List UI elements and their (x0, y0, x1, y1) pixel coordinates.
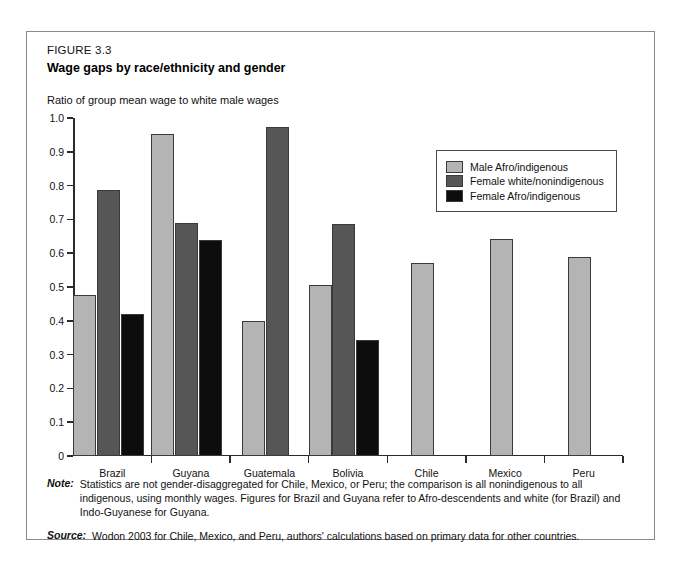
bar (332, 224, 355, 456)
x-tick-mark (622, 456, 624, 463)
bar-group: Guyana (152, 118, 231, 456)
y-tick-label: 0.2 (49, 382, 64, 394)
bar (266, 127, 289, 456)
bar-group: Guatemala (230, 118, 309, 456)
figure-title: Wage gaps by race/ethnicity and gender (47, 61, 286, 75)
legend-label: Male Afro/indigenous (470, 161, 568, 173)
legend-label: Female Afro/indigenous (470, 190, 580, 202)
bar (175, 223, 198, 456)
x-tick-mark (229, 456, 231, 463)
source-text: Wodon 2003 for Chile, Mexico, and Peru, … (92, 529, 579, 543)
bar (73, 295, 96, 456)
bar (356, 340, 379, 456)
y-tick-label: 0.6 (49, 247, 64, 259)
legend-item: Female white/nonindigenous (446, 175, 604, 187)
source-block: Source: Wodon 2003 for Chile, Mexico, an… (47, 529, 638, 543)
x-tick-mark (465, 456, 467, 463)
legend-label: Female white/nonindigenous (470, 175, 604, 187)
bar (411, 263, 434, 456)
source-label: Source: (47, 529, 92, 543)
y-tick-label: 0.4 (49, 315, 64, 327)
bar (568, 257, 591, 456)
y-tick-label: 0.3 (49, 349, 64, 361)
y-tick-label: 0 (58, 450, 64, 462)
figure-number: FIGURE 3.3 (47, 44, 112, 56)
bar (97, 190, 120, 456)
note-block: Note: Statistics are not gender-disaggre… (47, 477, 638, 520)
note-text: Statistics are not gender-disaggregated … (80, 477, 638, 520)
legend-swatch-icon (446, 175, 463, 187)
y-tick-label: 0.7 (49, 213, 64, 225)
x-tick-mark (544, 456, 546, 463)
y-tick-label: 0.1 (49, 416, 64, 428)
legend-swatch-icon (446, 161, 463, 173)
notes-section: Note: Statistics are not gender-disaggre… (47, 477, 638, 552)
bar-group: Brazil (73, 118, 152, 456)
y-tick-label: 0.5 (49, 281, 64, 293)
bar-group: Bolivia (309, 118, 388, 456)
y-axis-title: Ratio of group mean wage to white male w… (47, 94, 279, 106)
bar (242, 321, 265, 456)
legend-item: Female Afro/indigenous (446, 190, 604, 202)
bar (151, 134, 174, 456)
figure-frame: FIGURE 3.3 Wage gaps by race/ethnicity a… (26, 31, 655, 540)
x-tick-mark (308, 456, 310, 463)
x-tick-mark (151, 456, 153, 463)
legend-swatch-icon (446, 190, 463, 202)
bar (121, 314, 144, 456)
bar (309, 285, 332, 456)
x-tick-mark (387, 456, 389, 463)
bar (490, 239, 513, 456)
y-tick-label: 0.8 (49, 180, 64, 192)
bar (199, 240, 222, 456)
y-tick-label: 1.0 (49, 112, 64, 124)
legend: Male Afro/indigenousFemale white/nonindi… (436, 150, 617, 212)
note-label: Note: (47, 477, 80, 520)
legend-item: Male Afro/indigenous (446, 161, 604, 173)
y-tick-label: 0.9 (49, 146, 64, 158)
